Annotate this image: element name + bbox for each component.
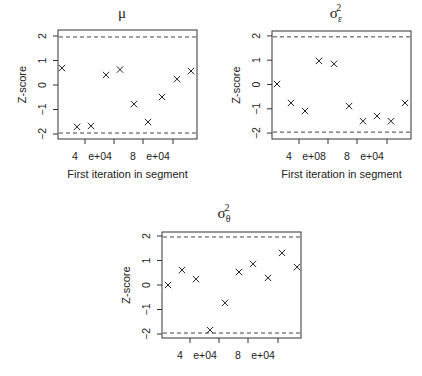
data-point [360,118,366,124]
y-tick-label: 0 [36,82,48,88]
y-tick-label: −2 [250,127,262,139]
data-point [103,72,109,78]
data-point [159,94,165,100]
data-point [145,119,151,125]
y-tick-label: 0 [140,282,152,288]
chart-title: σε2 [330,2,342,24]
x-tick-label: 8 [130,150,136,162]
x-tick-label: e+04 [146,150,170,162]
y-tick-label: 2 [140,233,152,239]
data-point [402,100,408,106]
chart-panel-1: −2−1012Z-score4e+048e+04First iteration … [16,5,197,180]
data-point [131,101,137,107]
plot-frame [162,232,301,338]
data-point [165,282,171,288]
x-tick-label: e+08 [302,150,326,162]
plot-frame [58,30,197,139]
y-tick-label: 1 [140,257,152,263]
data-point [302,108,308,114]
x-tick-label: e+04 [360,150,384,162]
chart-panel-3: −2−1012Z-score4e+048e+04σθ2 [120,202,301,361]
x-tick-label: 8 [344,150,350,162]
data-point [316,58,322,64]
y-axis-label: Z-score [230,66,242,103]
data-point [265,275,271,281]
data-point [117,66,123,72]
x-tick-label: e+04 [251,349,275,361]
data-point [279,250,285,256]
x-tick-label: 8 [235,349,241,361]
y-axis-label: Z-score [120,266,132,303]
data-point [294,264,300,270]
data-point [174,76,180,82]
x-tick-label: e+04 [88,150,112,162]
x-tick-label: 4 [177,349,183,361]
mcmc-geweke-plots: −2−1012Z-score4e+048e+04First iteration … [0,0,422,376]
chart-title: μ [118,5,126,21]
chart-panel-2: −2−1012Z-score4e+088e+04First iteration … [230,2,411,180]
data-point [193,276,199,282]
y-tick-label: −1 [250,103,262,115]
data-point [222,300,228,306]
data-point [207,327,213,333]
data-point [274,81,280,87]
x-tick-label: 4 [72,150,78,162]
data-point [236,269,242,275]
data-point [188,68,194,74]
data-point [59,65,65,71]
plot-frame [272,31,411,139]
y-tick-label: −2 [36,128,48,140]
data-point [179,267,185,273]
x-axis-label: First iteration in segment [67,168,187,180]
y-tick-label: 2 [250,33,262,39]
chart-title: σθ2 [218,202,231,224]
data-point [250,261,256,267]
data-point [88,123,94,129]
data-point [388,118,394,124]
y-tick-label: 1 [36,57,48,63]
data-point [374,113,380,119]
x-tick-label: 4 [286,150,292,162]
data-point [346,103,352,109]
data-point [74,124,80,130]
data-point [331,61,337,67]
x-axis-label: First iteration in segment [281,168,401,180]
y-tick-label: 1 [250,57,262,63]
data-point [288,100,294,106]
y-tick-label: 0 [250,81,262,87]
y-tick-label: −1 [36,103,48,115]
y-tick-label: 2 [36,33,48,39]
y-tick-label: −2 [140,328,152,340]
y-axis-label: Z-score [16,66,28,103]
x-tick-label: e+04 [193,349,217,361]
y-tick-label: −1 [140,303,152,315]
